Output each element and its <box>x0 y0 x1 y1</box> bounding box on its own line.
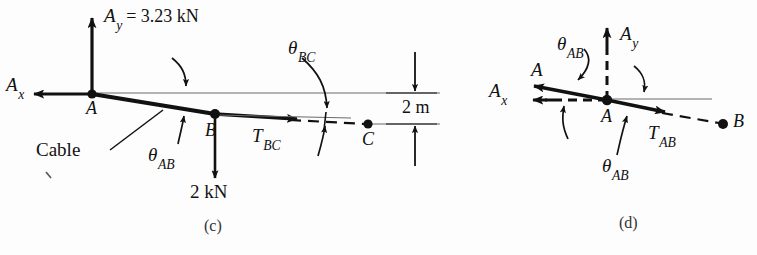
panel-c-cable-label: Cable <box>36 140 80 159</box>
panel-c-theta-bc-leader-upper <box>302 58 327 108</box>
panel-d-resultant-a-arrow <box>534 86 607 100</box>
panel-c-theta-ab-symbol: θ <box>148 144 157 165</box>
panel-c-point-b-label: B <box>205 121 216 139</box>
panel-d-theta-ab-upper-label: θAB <box>557 34 583 57</box>
panel-d-reaction-ay-label: Ay <box>620 24 638 47</box>
panel-c-theta-bc-label: θBC <box>288 38 315 61</box>
panel-c-cable-segment-ab <box>92 94 215 114</box>
panel-c-dashed-line-bc <box>290 120 366 124</box>
panel-d-tab-symbol: T <box>648 122 659 143</box>
panel-d-point-a-label: A <box>601 107 612 125</box>
panel-d-angle-leader-lower-left <box>563 106 568 139</box>
panel-d-node-a <box>602 95 612 105</box>
panel-c-theta-bc-subscript: BC <box>298 50 315 65</box>
panel-c-theta-bc-leader-lower <box>318 126 325 156</box>
panel-c-node-c <box>363 119 372 128</box>
panel-c-ay-symbol: A <box>104 5 116 26</box>
panel-c-load-label: 2 kN <box>190 182 227 201</box>
panel-d-reaction-ax-label: Ax <box>489 81 507 104</box>
panel-c-tbc-subscript: BC <box>263 138 280 153</box>
panel-d-dashed-line-ab <box>662 113 719 123</box>
panel-d-tab-subscript: AB <box>659 135 676 150</box>
panel-c-point-a-label: A <box>86 99 97 117</box>
panel-d-point-b-label: B <box>733 112 744 130</box>
panel-c-ay-value: = 3.23 kN <box>126 6 199 26</box>
panel-c-ay-subscript: y <box>116 18 122 33</box>
panel-d-angle-leader-upper-right <box>634 66 645 92</box>
panel-d-resultant-label: A <box>531 60 543 79</box>
panel-c-reaction-ay-label: Ay = 3.23 kN <box>104 6 199 29</box>
panel-d-ax-subscript: x <box>501 93 507 108</box>
panel-d-caption: (d) <box>619 215 638 231</box>
panel-d-ay-subscript: y <box>632 36 638 51</box>
panel-c-ax-subscript: x <box>18 87 24 102</box>
panel-d-theta-ab-upper-symbol: θ <box>557 33 566 54</box>
panel-c-tbc-symbol: T <box>252 125 263 146</box>
panel-c-theta-ab-subscript: AB <box>158 157 175 172</box>
panel-d-node-b <box>718 119 728 129</box>
panel-c-tension-bc-label: TBC <box>252 126 280 149</box>
panel-c-reaction-ax-label: Ax <box>6 75 24 98</box>
panel-c-ax-symbol: A <box>6 74 18 95</box>
panel-d-theta-ab-lower-symbol: θ <box>602 155 611 176</box>
panel-c-point-c-label: C <box>362 130 374 148</box>
panel-d-ax-symbol: A <box>489 80 501 101</box>
panel-c-datum-leader-arrow <box>172 58 186 86</box>
panel-d-theta-ab-lower-leader <box>617 116 627 155</box>
panel-d-tension-ab-label: TAB <box>648 123 675 146</box>
panel-c-dimension-label: 2 m <box>402 98 430 116</box>
panel-c-theta-bc-symbol: θ <box>288 37 297 58</box>
figure-vector-graphics <box>0 0 757 255</box>
panel-c-theta-ab-label: θAB <box>148 145 174 168</box>
panel-c-theta-ab-leader <box>178 116 184 144</box>
panel-d-theta-ab-lower-subscript: AB <box>612 168 629 183</box>
panel-d-tension-ab-arrow <box>607 100 665 112</box>
panel-c-caption: (c) <box>204 218 222 234</box>
panel-c-theta-bc-vertex-tick <box>324 112 326 130</box>
figure-container: Ay = 3.23 kN Ax A B C Cable θAB θBC TBC … <box>0 0 757 255</box>
panel-c-stray-mark <box>46 172 51 178</box>
panel-d-ay-symbol: A <box>620 23 632 44</box>
panel-d-theta-ab-upper-subscript: AB <box>567 46 584 61</box>
panel-d-theta-ab-lower-label: θAB <box>602 156 628 179</box>
